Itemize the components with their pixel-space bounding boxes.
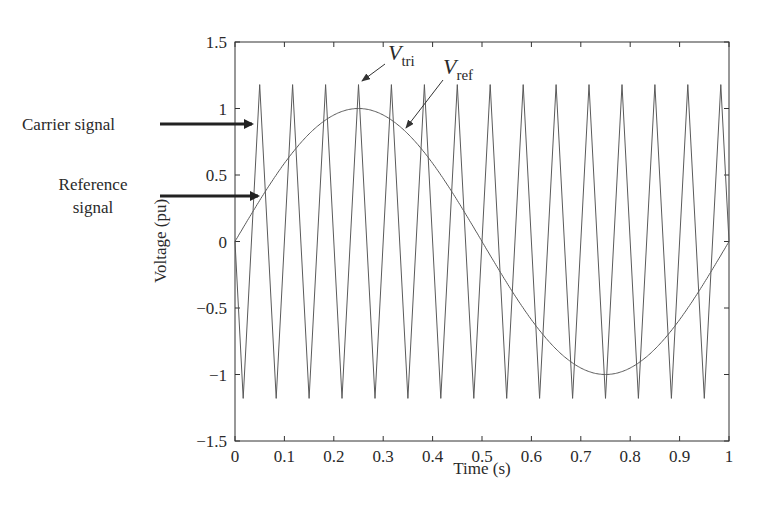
vtri-arrow xyxy=(362,64,385,81)
x-tick-label: 0.2 xyxy=(323,447,344,466)
x-tick-label: 0.4 xyxy=(422,447,444,466)
reference-sine-wave xyxy=(235,109,729,375)
x-tick-label: 1 xyxy=(725,447,734,466)
x-tick-label: 0.8 xyxy=(620,447,641,466)
vtri-label: Vtri xyxy=(388,40,415,69)
y-tick-label: 1.5 xyxy=(206,33,227,52)
x-axis-title: Time (s) xyxy=(453,459,510,478)
y-tick-label: −1 xyxy=(209,366,227,385)
y-tick-label: 0 xyxy=(219,233,228,252)
x-tick-label: 0.1 xyxy=(274,447,295,466)
x-tick-label: 0.6 xyxy=(521,447,542,466)
y-tick-label: −0.5 xyxy=(196,299,227,318)
x-tick-label: 0.9 xyxy=(669,447,690,466)
x-tick-label: 0 xyxy=(231,447,240,466)
vref-label: Vref xyxy=(443,54,473,83)
x-tick-label: 0.3 xyxy=(373,447,394,466)
x-tick-label: 0.7 xyxy=(570,447,592,466)
y-tick-label: 0.5 xyxy=(206,166,227,185)
reference-signal-label-line1: Reference xyxy=(59,175,128,194)
y-axis-title: Voltage (pu) xyxy=(151,199,170,283)
y-tick-label: 1 xyxy=(219,100,228,119)
reference-signal-label-line2: signal xyxy=(73,198,114,217)
y-tick-label: −1.5 xyxy=(196,432,227,451)
y-tick-labels: 1.510.50−0.5−1−1.5 xyxy=(196,33,227,451)
carrier-signal-label: Carrier signal xyxy=(22,115,115,134)
pwm-chart: 00.10.20.30.40.50.60.70.80.91 1.510.50−0… xyxy=(0,0,770,526)
